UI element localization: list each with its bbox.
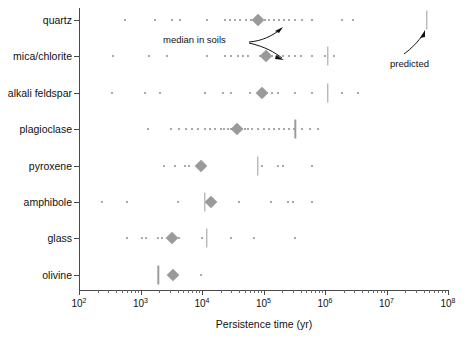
observation-dot xyxy=(277,165,279,167)
observation-dot xyxy=(126,237,128,239)
x-tick-minor xyxy=(373,290,374,293)
x-tick-minor xyxy=(416,290,417,293)
observation-dot xyxy=(271,92,273,94)
observation-dot xyxy=(111,92,113,94)
observation-dot xyxy=(311,165,313,167)
category-label-plagioclase: plagioclase xyxy=(19,123,72,135)
x-tick-minor xyxy=(293,290,294,293)
observation-dot xyxy=(244,128,246,130)
x-tick-label: 105 xyxy=(256,297,271,309)
x-tick-minor xyxy=(377,290,378,293)
observation-dot xyxy=(191,128,193,130)
x-tick-major xyxy=(79,290,80,295)
x-tick-minor xyxy=(254,290,255,293)
x-tick-minor xyxy=(434,290,435,293)
observation-dot xyxy=(154,19,156,21)
observation-dot xyxy=(294,92,296,94)
persistence-time-chart: quartzmica/chloritealkali feldsparplagio… xyxy=(0,0,470,339)
observation-dot xyxy=(317,128,319,130)
x-tick-minor xyxy=(127,290,128,293)
observation-dot xyxy=(247,55,249,57)
predicted-bar xyxy=(295,120,296,139)
x-tick-label: 108 xyxy=(440,297,455,309)
observation-dot xyxy=(144,92,146,94)
median-marker xyxy=(260,50,273,63)
observation-dot xyxy=(277,92,279,94)
annotation-median-in-soils: median in soils xyxy=(163,34,226,45)
observation-dot xyxy=(300,55,302,57)
observation-dot xyxy=(311,201,313,203)
observation-dot xyxy=(179,19,181,21)
observation-dot xyxy=(224,55,226,57)
observation-dot xyxy=(230,92,232,94)
observation-dot xyxy=(273,19,275,21)
observation-dot xyxy=(239,19,241,21)
median-marker xyxy=(194,159,207,172)
x-tick-minor xyxy=(199,290,200,293)
observation-dot xyxy=(261,165,263,167)
observation-dot xyxy=(148,55,150,57)
observation-dot xyxy=(201,237,203,239)
observation-dot xyxy=(309,128,311,130)
observation-dot xyxy=(224,19,226,21)
observation-dot xyxy=(214,128,216,130)
observation-dot xyxy=(170,128,172,130)
observation-dot xyxy=(333,55,335,57)
x-tick-label: 106 xyxy=(317,297,332,309)
x-tick-minor xyxy=(311,290,312,293)
x-tick-minor xyxy=(362,290,363,293)
observation-dot xyxy=(206,19,208,21)
category-tick xyxy=(74,166,80,167)
observation-dot xyxy=(292,201,294,203)
predicted-bar xyxy=(257,156,258,175)
x-tick-minor xyxy=(384,290,385,293)
x-tick-label: 104 xyxy=(194,297,209,309)
x-tick-minor xyxy=(250,290,251,293)
observation-dot xyxy=(204,128,206,130)
observation-dot xyxy=(171,19,173,21)
x-tick-minor xyxy=(424,290,425,293)
observation-dot xyxy=(294,237,296,239)
observation-dot xyxy=(257,128,259,130)
observation-dot xyxy=(230,55,232,57)
x-tick-minor xyxy=(108,290,109,293)
x-tick-minor xyxy=(282,290,283,293)
x-tick-minor xyxy=(381,290,382,293)
observation-dot xyxy=(311,55,313,57)
x-tick-major xyxy=(141,290,142,295)
observation-dot xyxy=(112,55,114,57)
predicted-bar xyxy=(327,47,328,66)
observation-dot xyxy=(288,55,290,57)
observation-dot xyxy=(253,237,255,239)
x-tick-label: 102 xyxy=(71,297,86,309)
x-tick-minor xyxy=(405,290,406,293)
x-tick-label: 103 xyxy=(133,297,148,309)
observation-dot xyxy=(287,201,289,203)
observation-dot xyxy=(101,201,103,203)
category-label-mica-chlorite: mica/chlorite xyxy=(13,50,72,62)
observation-dot xyxy=(227,128,229,130)
observation-dot xyxy=(341,19,343,21)
observation-dot xyxy=(282,165,284,167)
x-tick-minor xyxy=(122,290,123,293)
category-tick xyxy=(74,275,80,276)
observation-dot xyxy=(230,237,232,239)
observation-dot xyxy=(311,19,313,21)
category-tick xyxy=(74,129,80,130)
observation-dot xyxy=(268,19,270,21)
x-tick-minor xyxy=(319,290,320,293)
observation-dot xyxy=(247,128,249,130)
predicted-bar xyxy=(327,83,328,102)
observation-dot xyxy=(209,128,211,130)
predicted-bar xyxy=(426,11,427,30)
observation-dot xyxy=(352,19,354,21)
x-tick-minor xyxy=(322,290,323,293)
observation-dot xyxy=(242,55,244,57)
x-tick-minor xyxy=(354,290,355,293)
x-tick-major xyxy=(387,290,388,295)
category-label-glass: glass xyxy=(47,232,72,244)
observation-dot xyxy=(163,165,165,167)
x-tick-minor xyxy=(98,290,99,293)
x-tick-minor xyxy=(131,290,132,293)
observation-dot xyxy=(294,19,296,21)
